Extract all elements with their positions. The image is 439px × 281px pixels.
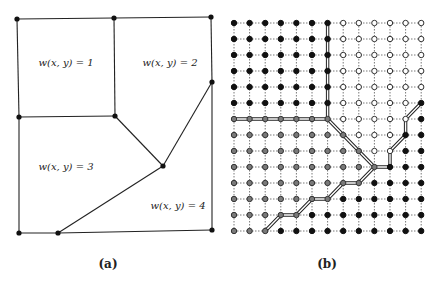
grid-node-hollow bbox=[341, 100, 346, 105]
grid-node-hollow bbox=[419, 52, 424, 57]
grid-node-gray bbox=[294, 148, 299, 153]
grid-node-black bbox=[325, 228, 330, 233]
grid-node-gray bbox=[309, 164, 314, 169]
grid-node-gray bbox=[278, 164, 283, 169]
grid-node-gray bbox=[278, 116, 283, 121]
grid-node-hollow bbox=[387, 68, 392, 73]
grid-node-black bbox=[403, 148, 408, 153]
grid-node-black bbox=[403, 164, 408, 169]
grid-node-hollow bbox=[341, 20, 346, 25]
grid-node-gray bbox=[247, 212, 252, 217]
grid-node-black bbox=[419, 100, 424, 105]
grid-node-black bbox=[278, 228, 283, 233]
grid-node-black bbox=[419, 196, 424, 201]
grid-node-gray bbox=[325, 148, 330, 153]
grid-node-gray bbox=[309, 196, 314, 201]
grid-node-hollow bbox=[387, 148, 392, 153]
grid-node-gray bbox=[231, 148, 236, 153]
grid-node-black bbox=[294, 100, 299, 105]
grid-node-black bbox=[372, 228, 377, 233]
grid-node-hollow bbox=[403, 84, 408, 89]
grid-node-gray bbox=[263, 228, 268, 233]
grid-node-black bbox=[387, 212, 392, 217]
grid-node-black bbox=[372, 180, 377, 185]
grid-node-hollow bbox=[403, 20, 408, 25]
grid-node-gray bbox=[325, 196, 330, 201]
grid-node-black bbox=[325, 20, 330, 25]
grid-node-gray bbox=[294, 180, 299, 185]
grid-node-hollow bbox=[403, 52, 408, 57]
grid-node-black bbox=[309, 20, 314, 25]
grid-node-hollow bbox=[372, 68, 377, 73]
grid-node-hollow bbox=[403, 36, 408, 41]
grid-node-black bbox=[403, 212, 408, 217]
region-boundary-edge bbox=[58, 230, 212, 233]
grid-node-black bbox=[356, 228, 361, 233]
grid-node-black bbox=[231, 68, 236, 73]
grid-node-black bbox=[309, 52, 314, 57]
grid-node-gray bbox=[278, 180, 283, 185]
grid-node-black bbox=[231, 100, 236, 105]
grid-node-hollow bbox=[356, 68, 361, 73]
region-boundary-edge bbox=[17, 18, 114, 19]
grid-node-gray bbox=[294, 164, 299, 169]
grid-node-hollow bbox=[372, 132, 377, 137]
vertex-dot bbox=[14, 16, 19, 21]
grid-node-gray bbox=[341, 164, 346, 169]
grid-node-black bbox=[419, 148, 424, 153]
grid-node-hollow bbox=[419, 20, 424, 25]
grid-node-black bbox=[263, 84, 268, 89]
grid-node-black bbox=[325, 84, 330, 89]
grid-node-gray bbox=[325, 132, 330, 137]
region-boundary-edge bbox=[163, 82, 212, 166]
grid-node-hollow bbox=[356, 116, 361, 121]
vertex-dot bbox=[209, 79, 214, 84]
grid-node-black bbox=[294, 20, 299, 25]
grid-node-gray bbox=[325, 116, 330, 121]
grid-node-black bbox=[278, 68, 283, 73]
grid-node-black bbox=[325, 52, 330, 57]
grid-node-black bbox=[341, 228, 346, 233]
grid-node-hollow bbox=[403, 68, 408, 73]
grid-node-gray bbox=[278, 212, 283, 217]
grid-node-black bbox=[403, 180, 408, 185]
grid-node-black bbox=[309, 100, 314, 105]
grid-node-hollow bbox=[356, 132, 361, 137]
grid-node-gray bbox=[231, 196, 236, 201]
grid-node-gray bbox=[294, 212, 299, 217]
grid-node-hollow bbox=[341, 52, 346, 57]
grid-node-black bbox=[419, 212, 424, 217]
region-boundary-edge bbox=[211, 17, 212, 82]
grid-node-gray bbox=[325, 164, 330, 169]
vertex-dot bbox=[16, 230, 21, 235]
grid-node-gray bbox=[263, 196, 268, 201]
grid-node-black bbox=[247, 20, 252, 25]
grid-node-black bbox=[419, 228, 424, 233]
grid-node-black bbox=[278, 100, 283, 105]
region-boundary-edge bbox=[115, 116, 163, 166]
grid-node-gray bbox=[247, 196, 252, 201]
grid-node-gray bbox=[309, 180, 314, 185]
grid-node-black bbox=[356, 212, 361, 217]
grid-node-gray bbox=[263, 116, 268, 121]
cut-2-3-inner bbox=[328, 119, 375, 167]
grid-node-black bbox=[325, 36, 330, 41]
grid-node-black bbox=[419, 180, 424, 185]
grid-node-hollow bbox=[356, 36, 361, 41]
grid-node-gray bbox=[309, 132, 314, 137]
grid-node-black bbox=[278, 52, 283, 57]
region-weight-label: w(x, y) = 1 bbox=[38, 57, 93, 68]
grid-node-gray bbox=[231, 132, 236, 137]
grid-node-black bbox=[294, 36, 299, 41]
grid-node-hollow bbox=[372, 148, 377, 153]
grid-node-hollow bbox=[419, 84, 424, 89]
grid-node-black bbox=[309, 228, 314, 233]
grid-node-black bbox=[341, 196, 346, 201]
grid-node-gray bbox=[247, 164, 252, 169]
grid-node-gray bbox=[263, 212, 268, 217]
grid-node-black bbox=[247, 68, 252, 73]
grid-node-black bbox=[387, 196, 392, 201]
grid-node-black bbox=[403, 228, 408, 233]
grid-node-gray bbox=[294, 116, 299, 121]
grid-node-black bbox=[231, 20, 236, 25]
